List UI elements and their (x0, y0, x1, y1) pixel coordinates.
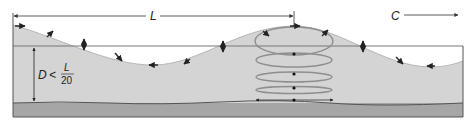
shallow-water-wave-diagram: L C D < L 20 (0, 0, 476, 122)
fraction-numerator: L (64, 62, 70, 73)
wavelength-label: L (150, 9, 157, 23)
celerity-label: C (391, 9, 400, 23)
depth-relation: < (49, 68, 56, 82)
water-body (13, 25, 463, 103)
fraction-denominator: 20 (61, 75, 73, 86)
depth-label: D (38, 68, 47, 82)
velocity-arrow (47, 31, 53, 37)
